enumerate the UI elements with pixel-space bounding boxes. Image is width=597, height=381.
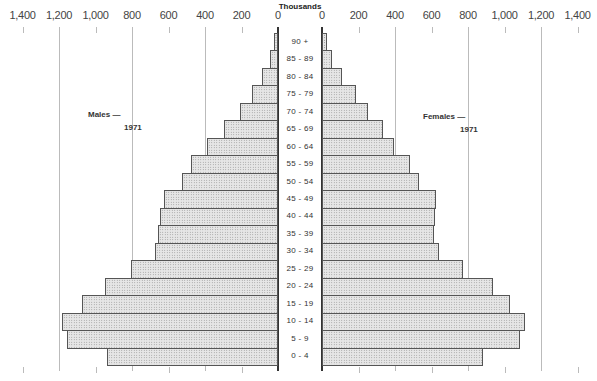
left-tick-label: 800 <box>123 9 140 21</box>
male-bar <box>160 208 278 226</box>
age-group-label: 70 - 74 <box>286 107 313 116</box>
age-group-label: 80 - 84 <box>286 72 313 81</box>
right-tick-label: 1,000 <box>491 9 517 21</box>
female-bar <box>322 243 439 261</box>
left-tick-label: 400 <box>196 9 213 21</box>
female-bar <box>322 295 510 313</box>
age-group-label: 25 - 29 <box>286 264 313 273</box>
male-bar <box>270 50 278 68</box>
age-group-label: 15 - 19 <box>286 299 313 308</box>
left-tick-label: 200 <box>233 9 250 21</box>
female-bar <box>322 348 483 366</box>
age-group-label: 30 - 34 <box>286 246 313 255</box>
age-group-label: 40 - 44 <box>286 211 313 220</box>
female-bar <box>322 330 520 348</box>
right-tick-label: 0 <box>319 9 325 21</box>
female-bar <box>322 138 394 156</box>
female-bar <box>322 120 383 138</box>
right-tick-label: 800 <box>459 9 476 21</box>
tick-mark <box>96 27 97 33</box>
females-series-label: Females — <box>423 112 465 121</box>
male-bar <box>252 85 278 103</box>
tick-mark <box>432 367 433 373</box>
left-tick-label: 1,000 <box>82 9 108 21</box>
tick-mark <box>578 27 579 33</box>
males-series-year: 1971 <box>124 123 142 132</box>
age-group-label: 60 - 64 <box>286 142 313 151</box>
right-tick-label: 200 <box>350 9 367 21</box>
age-group-label: 90 + <box>292 37 309 46</box>
male-bar <box>191 155 278 173</box>
age-group-label: 45 - 49 <box>286 194 313 203</box>
age-group-label: 65 - 69 <box>286 124 313 133</box>
male-bar <box>240 103 278 121</box>
male-bar <box>107 348 278 366</box>
age-group-label: 50 - 54 <box>286 177 313 186</box>
male-bar <box>82 295 278 313</box>
female-bar <box>322 103 368 121</box>
right-tick-label: 1,400 <box>564 9 590 21</box>
right-tick-label: 1,200 <box>528 9 554 21</box>
male-bar <box>182 173 278 191</box>
male-bar <box>262 68 278 86</box>
age-group-label: 55 - 59 <box>286 159 313 168</box>
left-tick-label: 600 <box>160 9 177 21</box>
female-bar <box>322 313 525 331</box>
tick-mark <box>242 27 243 33</box>
female-bar <box>322 278 493 296</box>
tick-mark <box>23 27 24 33</box>
female-bar <box>322 260 463 278</box>
tick-mark <box>242 367 243 373</box>
male-bar <box>207 138 278 156</box>
age-group-label: 75 - 79 <box>286 89 313 98</box>
tick-mark <box>169 27 170 33</box>
female-bar <box>322 155 410 173</box>
female-bar <box>322 68 342 86</box>
gridline <box>59 27 60 371</box>
females-series-year: 1971 <box>460 125 478 134</box>
age-group-label: 0 - 4 <box>291 351 309 360</box>
tick-mark <box>169 367 170 373</box>
tick-mark <box>432 27 433 33</box>
male-bar <box>62 313 278 331</box>
tick-mark <box>505 367 506 373</box>
female-bar <box>322 208 435 226</box>
age-group-label: 10 - 14 <box>286 316 313 325</box>
left-tick-label: 0 <box>275 9 281 21</box>
female-bar <box>322 50 332 68</box>
age-group-label: 20 - 24 <box>286 281 313 290</box>
age-group-label: 5 - 9 <box>291 334 309 343</box>
tick-mark <box>359 367 360 373</box>
male-bar <box>158 225 278 243</box>
tick-mark <box>578 367 579 373</box>
age-group-label: 35 - 39 <box>286 229 313 238</box>
population-pyramid-chart: Thousands 002002004004006006008008001,00… <box>0 0 597 381</box>
gridline <box>541 27 542 371</box>
male-bar <box>105 278 278 296</box>
tick-mark <box>23 367 24 373</box>
right-tick-label: 600 <box>423 9 440 21</box>
males-series-label: Males — <box>88 110 120 119</box>
tick-mark <box>359 27 360 33</box>
tick-mark <box>505 27 506 33</box>
female-bar <box>322 33 327 51</box>
male-bar <box>67 330 278 348</box>
male-bar <box>164 190 278 208</box>
female-bar <box>322 190 436 208</box>
male-bar <box>274 33 278 51</box>
female-bar <box>322 225 434 243</box>
male-bar <box>224 120 278 138</box>
units-label: Thousands <box>279 2 322 11</box>
left-tick-label: 1,400 <box>9 9 35 21</box>
right-tick-label: 400 <box>386 9 403 21</box>
left-tick-label: 1,200 <box>46 9 72 21</box>
age-group-label: 85 - 89 <box>286 54 313 63</box>
male-bar <box>155 243 278 261</box>
female-bar <box>322 173 419 191</box>
tick-mark <box>96 367 97 373</box>
male-bar <box>131 260 278 278</box>
female-bar <box>322 85 356 103</box>
